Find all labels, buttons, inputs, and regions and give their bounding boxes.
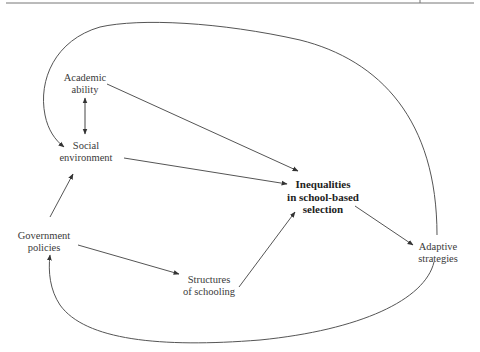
node-label-line1: Government <box>18 230 71 242</box>
edge-inequalities-adaptive <box>355 206 413 245</box>
node-label-line2: policies <box>18 242 71 254</box>
edge-academic-inequalities <box>107 84 298 171</box>
node-label-line1: Adaptive <box>418 241 458 253</box>
node-label-line1: Academic <box>64 72 107 84</box>
node-social-environment: Social environment <box>59 140 112 164</box>
edge-adaptive-government-curve <box>49 255 434 343</box>
node-government-policies: Government policies <box>18 230 71 254</box>
node-label-line2: environment <box>59 152 112 164</box>
node-label-line2: in school-based <box>287 191 359 204</box>
node-structures-of-schooling: Structures of schooling <box>183 274 235 298</box>
node-label-line1: Social <box>59 140 112 152</box>
edge-government-social <box>50 174 73 217</box>
node-label-line1: Inequalities <box>287 178 359 191</box>
edge-adaptive-social-curve <box>43 22 437 235</box>
node-adaptive-strategies: Adaptive strategies <box>418 241 458 265</box>
diagram-edges <box>0 0 480 352</box>
node-label-line3: selection <box>287 203 359 216</box>
node-academic-ability: Academic ability <box>64 72 107 96</box>
edge-government-structures <box>78 245 179 274</box>
node-inequalities: Inequalities in school-based selection <box>287 178 359 216</box>
node-label-line2: of schooling <box>183 286 235 298</box>
edge-structures-inequalities <box>239 212 295 287</box>
diagram-canvas: Academic ability Social environment Gove… <box>0 0 480 352</box>
edge-social-inequalities <box>124 158 287 184</box>
node-label-line2: ability <box>64 84 107 96</box>
node-label-line1: Structures <box>183 274 235 286</box>
node-label-line2: strategies <box>418 253 458 265</box>
